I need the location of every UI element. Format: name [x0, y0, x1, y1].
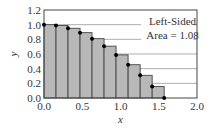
y-tick-label: 0.6	[27, 48, 41, 60]
y-tick-label: 0.4	[27, 63, 41, 75]
data-point	[102, 44, 106, 48]
bar	[80, 33, 92, 98]
data-point	[114, 53, 118, 57]
data-point	[66, 26, 70, 30]
annotation-line2: Area = 1.08	[146, 29, 199, 41]
bar	[104, 46, 116, 98]
bar	[152, 87, 164, 98]
data-point	[54, 24, 58, 28]
x-tick-label: 0.5	[75, 100, 89, 112]
data-point	[126, 63, 130, 67]
x-tick-label: 1.0	[114, 100, 128, 112]
x-axis-label: x	[117, 113, 123, 125]
y-tick-label: 0.8	[27, 33, 41, 45]
bar	[68, 28, 80, 98]
data-point	[78, 31, 82, 35]
bar	[92, 39, 104, 98]
y-tick-label: 1.2	[27, 4, 41, 16]
bar	[56, 26, 68, 98]
bar	[44, 25, 56, 98]
data-point	[90, 37, 94, 41]
x-tick-label: 2.0	[190, 100, 204, 112]
bar	[116, 55, 128, 98]
y-tick-label: 0.2	[27, 77, 41, 89]
annotation-line1: Left-Sided	[149, 15, 197, 27]
bar	[128, 65, 140, 98]
riemann-sum-chart: Left-SidedArea = 1.080.00.51.01.52.00.00…	[0, 0, 213, 128]
data-point	[150, 85, 154, 89]
data-point	[138, 73, 142, 77]
y-axis-label: y	[7, 51, 19, 57]
y-tick-label: 1.0	[27, 19, 41, 31]
x-tick-label: 1.5	[152, 100, 166, 112]
data-point	[42, 23, 46, 27]
y-tick-label: 0.0	[27, 92, 41, 104]
